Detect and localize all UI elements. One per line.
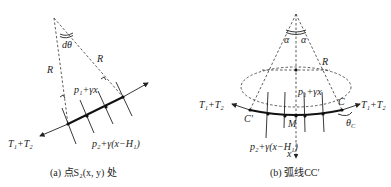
tension-arrow-left	[40, 124, 68, 136]
diagram-canvas: dθ R R p₁+γx p₂+γ(x−H₁) T₁+T₂ (a) 点S₂(x,…	[0, 0, 391, 187]
point-c-prime-label: C′	[244, 113, 254, 124]
radius-line-left	[250, 14, 296, 110]
angle-label-right: α	[301, 34, 307, 45]
contact-angle-label: θC	[346, 117, 356, 129]
angle-arc	[60, 33, 73, 35]
point-m-label: M	[287, 118, 297, 129]
contact-angle-arc	[338, 112, 352, 116]
angle-label: dθ	[62, 39, 72, 50]
tension-arrow-right	[342, 104, 360, 110]
tension-arrow-left	[232, 104, 250, 110]
point-c-label: C	[338, 96, 345, 107]
inner-pressure-label: p₁+γx	[297, 86, 322, 97]
radius-label: R	[321, 56, 328, 67]
radius-label-right: R	[96, 53, 103, 64]
angle-arc	[286, 30, 306, 32]
radius-line-left	[54, 18, 68, 124]
membrane-segment	[68, 97, 123, 124]
caption-a: (a) 点S₂(x, y) 处	[50, 167, 117, 179]
tension-label-left: T₁+T₂	[199, 99, 224, 110]
radius-tick-right	[101, 77, 106, 80]
tension-label-right: T₁+T₂	[361, 99, 386, 110]
caption-b: (b) 弧线CC′	[270, 166, 320, 179]
outer-pressure-label: p₂+γ(x−H₁)	[91, 138, 140, 150]
figure-b: α α R p₁+γx p₂+γ(x−H₁) T₁+T₂ T₁+T₂ C C′ …	[199, 14, 386, 179]
tension-label: T₁+T₂	[8, 138, 33, 149]
inner-pressure-label: p₁+γx	[73, 84, 98, 95]
x-axis-label: x	[286, 148, 292, 159]
figure-a: dθ R R p₁+γx p₂+γ(x−H₁) T₁+T₂ (a) 点S₂(x,…	[8, 18, 148, 179]
angle-label-left: α	[284, 34, 290, 45]
pressure-line	[284, 92, 285, 128]
radius-label-left: R	[46, 64, 53, 75]
pressure-line	[322, 92, 324, 132]
pressure-line	[304, 92, 305, 132]
tension-arrow-right	[123, 83, 148, 97]
